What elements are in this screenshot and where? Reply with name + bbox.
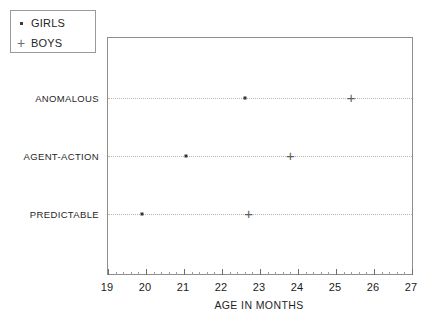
- x-axis-major-tick: [146, 269, 147, 275]
- x-axis-minor-tick: [366, 272, 367, 275]
- x-axis-minor-tick: [397, 272, 398, 275]
- x-axis-minor-tick: [351, 272, 352, 275]
- x-axis-minor-tick: [116, 272, 117, 275]
- data-point-girls: [184, 155, 187, 158]
- x-axis-minor-tick: [154, 272, 155, 275]
- x-axis-minor-tick: [192, 272, 193, 275]
- x-axis-tick-label: 19: [101, 281, 114, 293]
- x-axis-minor-tick: [268, 272, 269, 275]
- x-axis-major-tick: [298, 269, 299, 275]
- x-axis-minor-tick: [230, 272, 231, 275]
- x-axis-minor-tick: [275, 272, 276, 275]
- x-axis-minor-tick: [359, 272, 360, 275]
- x-axis-major-tick: [184, 269, 185, 275]
- x-axis-minor-tick: [306, 272, 307, 275]
- x-axis-major-tick: [336, 269, 337, 275]
- x-axis-tick-label: 25: [329, 281, 342, 293]
- x-axis-major-tick: [412, 269, 413, 275]
- x-axis-tick-label: 23: [253, 281, 266, 293]
- y-axis-category-label: PREDICTABLE: [30, 209, 99, 220]
- x-axis-minor-tick: [290, 272, 291, 275]
- legend-entry-girls: GIRLS: [11, 12, 95, 33]
- x-axis-minor-tick: [199, 272, 200, 275]
- x-axis-minor-tick: [161, 272, 162, 275]
- data-point-girls: [243, 97, 246, 100]
- data-point-boys: +: [344, 91, 358, 105]
- data-point-girls: [141, 213, 144, 216]
- x-axis-major-tick: [222, 269, 223, 275]
- x-axis-minor-tick: [138, 272, 139, 275]
- x-axis-minor-tick: [321, 272, 322, 275]
- legend-label-girls: GIRLS: [31, 17, 65, 29]
- x-axis-minor-tick: [404, 272, 405, 275]
- scatter-plot-area: ANOMALOUSAGENT-ACTIONPREDICTABLE+++: [107, 37, 413, 275]
- gridline: [108, 156, 412, 158]
- x-axis-minor-tick: [131, 272, 132, 275]
- x-axis-tick-label: 20: [139, 281, 152, 293]
- x-axis-title: AGE IN MONTHS: [107, 299, 411, 311]
- gridline: [108, 98, 412, 100]
- x-axis-minor-tick: [245, 272, 246, 275]
- x-axis-minor-tick: [313, 272, 314, 275]
- x-axis-minor-tick: [123, 272, 124, 275]
- dot-marker-icon: [11, 17, 31, 28]
- legend-entry-boys: + BOYS: [11, 32, 95, 53]
- chart-legend: GIRLS + BOYS: [10, 10, 96, 53]
- x-axis-tick-label: 22: [215, 281, 228, 293]
- x-axis-minor-tick: [176, 272, 177, 275]
- x-axis-minor-tick: [169, 272, 170, 275]
- x-axis-tick-label: 24: [291, 281, 304, 293]
- x-axis-minor-tick: [207, 272, 208, 275]
- x-axis-minor-tick: [283, 272, 284, 275]
- x-axis-minor-tick: [389, 272, 390, 275]
- gridline: [108, 214, 412, 216]
- x-axis-major-tick: [374, 269, 375, 275]
- y-axis-category-label: AGENT-ACTION: [24, 151, 99, 162]
- x-axis-minor-tick: [237, 272, 238, 275]
- x-axis-tick-label: 27: [405, 281, 418, 293]
- x-axis-minor-tick: [344, 272, 345, 275]
- x-axis-major-tick: [260, 269, 261, 275]
- x-axis-minor-tick: [382, 272, 383, 275]
- x-axis-minor-tick: [252, 272, 253, 275]
- x-axis-minor-tick: [214, 272, 215, 275]
- data-point-boys: +: [283, 149, 297, 163]
- data-point-boys: +: [242, 207, 256, 221]
- x-axis-major-tick: [108, 269, 109, 275]
- x-axis-minor-tick: [328, 272, 329, 275]
- y-axis-category-label: ANOMALOUS: [35, 93, 99, 104]
- x-axis-tick-label: 26: [367, 281, 380, 293]
- legend-label-boys: BOYS: [31, 37, 62, 49]
- x-axis-tick-label: 21: [177, 281, 190, 293]
- plus-marker-icon: +: [11, 37, 31, 48]
